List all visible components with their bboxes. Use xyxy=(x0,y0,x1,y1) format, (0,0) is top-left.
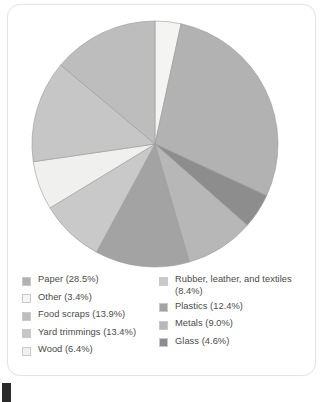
legend-swatch-paper xyxy=(22,277,31,286)
legend-swatch-wood xyxy=(22,347,31,356)
legend-swatch-food-scraps xyxy=(22,312,31,321)
legend-swatch-glass xyxy=(159,338,168,347)
legend-item-glass[interactable]: Glass (4.6%) xyxy=(159,336,309,350)
scan-edge-artifact xyxy=(2,383,11,402)
legend-column-left: Paper (28.5%) Other (3.4%) Food scraps (… xyxy=(22,274,159,362)
figure-card: Paper (28.5%) Other (3.4%) Food scraps (… xyxy=(7,4,316,376)
legend-item-rubber-leather-textiles[interactable]: Rubber, leather, and textiles (8.4%) xyxy=(159,274,309,297)
legend-label-yard-trimmings: Yard trimmings (13.4%) xyxy=(38,327,136,339)
legend-item-metals[interactable]: Metals (9.0%) xyxy=(159,318,309,332)
legend-column-right: Rubber, leather, and textiles (8.4%) Pla… xyxy=(159,274,309,353)
chart-legend: Paper (28.5%) Other (3.4%) Food scraps (… xyxy=(8,268,317,373)
legend-swatch-metals xyxy=(159,321,168,330)
legend-label-food-scraps: Food scraps (13.9%) xyxy=(38,309,125,321)
legend-label-plastics: Plastics (12.4%) xyxy=(175,301,243,313)
legend-item-paper[interactable]: Paper (28.5%) xyxy=(22,274,159,288)
legend-label-wood: Wood (6.4%) xyxy=(38,344,93,356)
legend-item-plastics[interactable]: Plastics (12.4%) xyxy=(159,301,309,315)
legend-label-rubber-leather-textiles: Rubber, leather, and textiles (8.4%) xyxy=(175,274,292,297)
legend-label-glass: Glass (4.6%) xyxy=(175,336,229,348)
legend-label-metals: Metals (9.0%) xyxy=(175,318,233,330)
pie-chart-area xyxy=(8,5,317,263)
legend-swatch-rubber-leather-textiles xyxy=(159,277,168,286)
legend-item-yard-trimmings[interactable]: Yard trimmings (13.4%) xyxy=(22,327,159,341)
legend-item-food-scraps[interactable]: Food scraps (13.9%) xyxy=(22,309,159,323)
legend-swatch-plastics xyxy=(159,303,168,312)
legend-label-other: Other (3.4%) xyxy=(38,292,92,304)
pie-slice-group xyxy=(32,21,278,267)
legend-swatch-yard-trimmings xyxy=(22,329,31,338)
legend-item-other[interactable]: Other (3.4%) xyxy=(22,292,159,306)
legend-swatch-other xyxy=(22,294,31,303)
legend-item-wood[interactable]: Wood (6.4%) xyxy=(22,344,159,358)
legend-label-paper: Paper (28.5%) xyxy=(38,274,99,286)
pie-chart[interactable] xyxy=(30,19,280,269)
